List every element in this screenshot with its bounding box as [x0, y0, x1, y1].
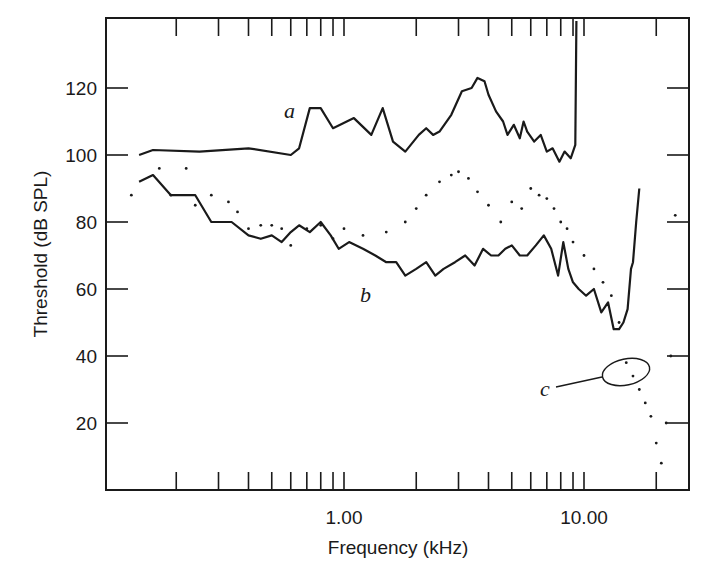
scatter-dot: [404, 221, 407, 224]
scatter-dot: [270, 224, 273, 227]
curve-label-b: b: [360, 282, 371, 307]
scatter-dot: [305, 227, 308, 230]
scatter-dot: [545, 197, 548, 200]
scatter-dot: [343, 227, 346, 230]
scatter-dot: [210, 194, 213, 197]
scatter-dot: [572, 241, 575, 244]
threshold-frequency-chart: abc 204060801001201.0010.00 Frequency (k…: [0, 0, 701, 573]
scatter-dot: [289, 244, 292, 247]
scatter-dot: [602, 281, 605, 284]
scatter-dot: [610, 294, 613, 297]
scatter-dot: [650, 415, 653, 418]
scatter-dot: [236, 211, 239, 214]
scatter-dot: [130, 194, 133, 197]
scatter-dot: [450, 174, 453, 177]
scatter-dot: [259, 224, 262, 227]
scatter-dot: [625, 361, 628, 364]
y-tick-label: 100: [65, 145, 97, 166]
scatter-dot: [158, 167, 161, 170]
scatter-dot: [618, 321, 621, 324]
scatter-dot: [476, 190, 479, 193]
scatter-dot: [457, 170, 460, 173]
scatter-dot: [247, 227, 250, 230]
scatter-dot: [170, 194, 173, 197]
scatter-dot: [467, 177, 470, 180]
scatter-dot: [559, 221, 562, 224]
scatter-dot: [332, 237, 335, 240]
y-tick-label: 120: [65, 78, 97, 99]
y-tick-label: 80: [76, 212, 97, 233]
scatter-dot: [227, 201, 230, 204]
scatter-dot: [566, 227, 569, 230]
y-axis-title: Threshold (dB SPL): [30, 171, 51, 338]
scatter-dot: [319, 224, 322, 227]
y-tick-label: 60: [76, 279, 97, 300]
scatter-dot: [553, 207, 556, 210]
scatter-dot: [194, 204, 197, 207]
axis-ticks: [106, 18, 689, 490]
series-a-line: [139, 21, 576, 162]
ellipse-c: [600, 354, 652, 389]
scatter-dot: [425, 194, 428, 197]
scatter-dot: [669, 355, 672, 358]
scatter-dot: [280, 227, 283, 230]
data-series: [130, 21, 677, 465]
x-tick-label: 1.00: [326, 507, 363, 528]
scatter-dot: [529, 187, 532, 190]
plot-border: [106, 18, 689, 490]
scatter-dot: [520, 207, 523, 210]
axis-labels: 204060801001201.0010.00: [65, 78, 607, 528]
x-axis-title: Frequency (kHz): [328, 537, 468, 558]
scatter-dot: [660, 462, 663, 465]
scatter-dot: [385, 231, 388, 234]
scatter-dot: [583, 254, 586, 257]
scatter-dot: [655, 442, 658, 445]
scatter-dot: [674, 214, 677, 217]
scatter-dot: [632, 375, 635, 378]
scatter-dot: [644, 402, 647, 405]
series-b-line: [139, 175, 639, 329]
curve-label-a: a: [284, 98, 295, 123]
scatter-dot: [499, 221, 502, 224]
scatter-dot: [438, 180, 441, 183]
y-tick-label: 40: [76, 346, 97, 367]
plot-frame: [106, 18, 689, 490]
scatter-dot: [638, 388, 641, 391]
curve-label-c: c: [540, 376, 550, 401]
scatter-dot: [593, 268, 596, 271]
scatter-dot: [665, 422, 668, 425]
scatter-dot: [415, 207, 418, 210]
scatter-dot: [487, 204, 490, 207]
leader-line-c: [556, 377, 602, 387]
y-tick-label: 20: [76, 413, 97, 434]
scatter-dot: [510, 201, 513, 204]
scatter-dot: [185, 167, 188, 170]
scatter-dot: [362, 234, 365, 237]
scatter-dot: [538, 194, 541, 197]
x-tick-label: 10.00: [560, 507, 608, 528]
